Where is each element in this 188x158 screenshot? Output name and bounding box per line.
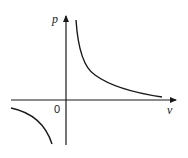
curve-right-branch xyxy=(76,20,162,97)
origin-label: 0 xyxy=(54,103,60,115)
x-axis-label: v xyxy=(167,103,173,117)
y-axis-label: p xyxy=(51,12,58,26)
curve-left-branch xyxy=(11,108,52,144)
hyperbola-diagram: p v 0 xyxy=(0,0,188,158)
